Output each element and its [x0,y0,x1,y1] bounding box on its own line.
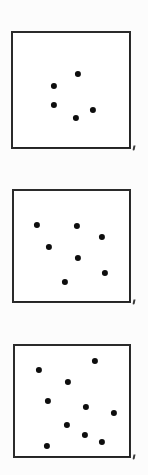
panel-1-edge-shadow-bottom [15,147,130,148]
data-point [36,367,42,373]
data-point [51,102,57,108]
data-point [74,223,80,229]
panel-2 [12,189,131,303]
panel-3-edge-shadow-bottom [17,456,130,457]
data-point [34,222,40,228]
corner-comma-mark [132,146,135,151]
data-point [45,398,51,404]
data-point [92,358,98,364]
panel-2-edge-shadow-bottom [16,301,130,302]
data-point [90,107,96,113]
data-point [51,83,57,89]
data-point [75,255,81,261]
data-point [82,432,88,438]
data-point [73,115,79,121]
data-point [83,404,89,410]
panel-2-edge-shadow-right [129,193,130,302]
panel-3-plot-area [15,346,129,456]
panel-1-plot-area [13,33,129,147]
panel-3-edge-shadow-right [129,348,130,457]
data-point [99,234,105,240]
data-point [111,410,117,416]
data-point [44,443,50,449]
data-point [46,244,52,250]
data-point [64,422,70,428]
panel-3 [13,344,131,458]
data-point [62,279,68,285]
figure-root [0,0,148,475]
panel-1-edge-shadow-right [129,35,130,148]
panel-1 [11,31,131,149]
corner-comma-mark [132,455,135,460]
data-point [102,270,108,276]
data-point [65,379,71,385]
panel-2-plot-area [14,191,129,301]
data-point [75,71,81,77]
corner-comma-mark [132,300,135,305]
data-point [99,439,105,445]
